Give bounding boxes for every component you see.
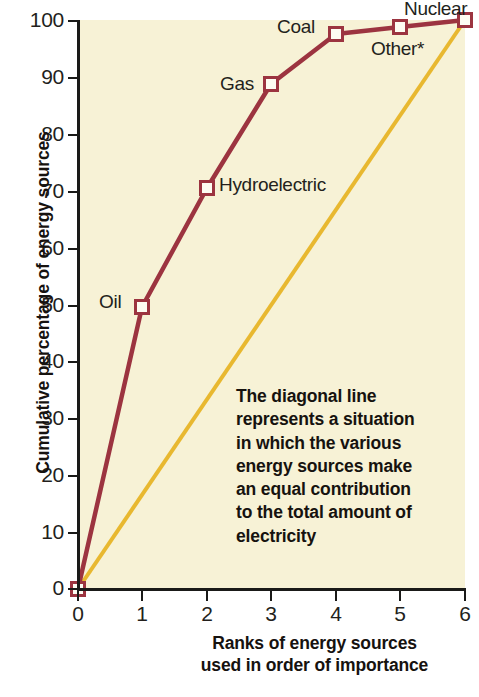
point-label-hydroelectric: Hydroelectric [219, 174, 326, 196]
x-tick-label-1: 1 [122, 602, 162, 626]
x-tick-2 [206, 591, 208, 601]
y-tick-70 [68, 191, 78, 193]
y-tick-100 [68, 20, 78, 22]
y-axis-title: Cumulative percentage of energy sources [33, 13, 54, 593]
point-label-oil: Oil [99, 291, 121, 313]
data-point-marker-coal [330, 28, 343, 41]
point-label-nuclear: Nuclear [404, 0, 467, 20]
diagonal-explanation-annotation: The diagonal line represents a situation… [236, 385, 416, 548]
x-tick-1 [141, 591, 143, 601]
y-tick-20 [68, 475, 78, 477]
y-tick-80 [68, 134, 78, 136]
y-tick-50 [68, 305, 78, 307]
data-point-marker-gas [265, 78, 278, 91]
x-axis-title: Ranks of energy sources used in order of… [150, 632, 479, 677]
x-tick-label-0: 0 [58, 602, 98, 626]
point-label-gas: Gas [220, 73, 254, 95]
x-tick-4 [335, 591, 337, 601]
x-tick-label-4: 4 [316, 602, 356, 626]
x-tick-3 [270, 591, 272, 601]
x-tick-label-6: 6 [445, 602, 479, 626]
x-tick-0 [77, 591, 79, 601]
point-label-coal: Coal [277, 16, 315, 38]
x-tick-label-2: 2 [187, 602, 227, 626]
y-tick-10 [68, 532, 78, 534]
y-tick-40 [68, 361, 78, 363]
x-tick-label-5: 5 [380, 602, 420, 626]
x-tick-6 [464, 591, 466, 601]
x-tick-label-3: 3 [251, 602, 291, 626]
y-tick-60 [68, 248, 78, 250]
x-axis-title-line1: Ranks of energy sources [212, 633, 417, 653]
data-point-marker-oil [136, 301, 149, 314]
data-point-marker-hydroelectric [201, 182, 214, 195]
point-label-other: Other* [371, 38, 424, 60]
lorenz-curve-chart: 100 90 80 70 60 50 40 30 20 10 0 0 1 2 3… [0, 0, 479, 697]
y-tick-90 [68, 77, 78, 79]
plot-series-layer [0, 0, 479, 697]
y-tick-30 [68, 418, 78, 420]
x-tick-5 [399, 591, 401, 601]
x-axis-title-line2: used in order of importance [201, 655, 428, 675]
data-point-marker-other [394, 21, 407, 34]
y-tick-0 [68, 588, 78, 590]
